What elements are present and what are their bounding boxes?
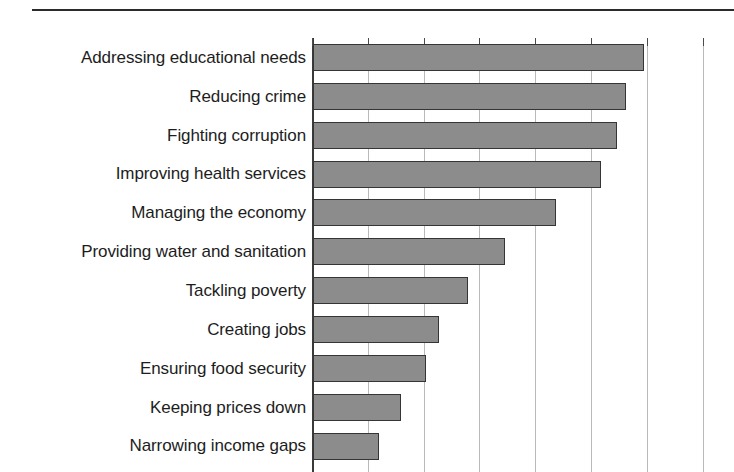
bar-category-label: Reducing crime [0,77,306,116]
bar [313,161,601,188]
bar [313,44,644,71]
bar-category-label: Fighting corruption [0,116,306,155]
bar-category-label: Ensuring food security [0,349,306,388]
bar-row: Ensuring food security [0,349,734,388]
bar [313,433,379,460]
bar-category-label: Providing water and sanitation [0,232,306,271]
bar-category-label: Keeping prices down [0,388,306,427]
bar [313,238,505,265]
bar [313,316,439,343]
bar [313,199,556,226]
bar-row: Reducing crime [0,77,734,116]
chart-page: Addressing educational needsReducing cri… [0,0,734,472]
bar [313,355,426,382]
bar-row: Providing water and sanitation [0,232,734,271]
horizontal-bar-chart: Addressing educational needsReducing cri… [0,0,734,472]
bar-row: Creating jobs [0,310,734,349]
bar-row: Narrowing income gaps [0,427,734,466]
bar [313,277,468,304]
bar-category-label: Managing the economy [0,193,306,232]
bar-row: Tackling poverty [0,271,734,310]
bar-category-label: Tackling poverty [0,271,306,310]
bar-category-label: Narrowing income gaps [0,427,306,466]
bar-row: Managing the economy [0,193,734,232]
bar [313,394,401,421]
bar-row: Fighting corruption [0,116,734,155]
bar-category-label: Addressing educational needs [0,38,306,77]
bar-row: Improving health services [0,155,734,194]
bar [313,83,626,110]
bar-row: Addressing educational needs [0,38,734,77]
bar-category-label: Improving health services [0,155,306,194]
bar-category-label: Creating jobs [0,310,306,349]
bar-row: Keeping prices down [0,388,734,427]
bar [313,122,617,149]
